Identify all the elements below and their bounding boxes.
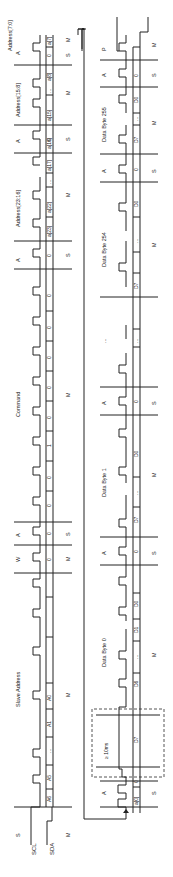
data-byte-0-title: Data Byte 0 [101, 638, 107, 667]
svg-text:D7: D7 [133, 736, 139, 743]
addr-23-16-title: Address[23:16] [15, 190, 21, 227]
svg-text:...: ... [46, 180, 52, 184]
svg-text:D0: D0 [133, 200, 139, 207]
ack-title: A [15, 139, 21, 143]
svg-text:0: 0 [133, 780, 139, 783]
svg-text:a[7]: a[7] [46, 36, 52, 45]
svg-text:M: M [65, 192, 71, 197]
svg-text:D6: D6 [133, 680, 139, 687]
data-byte-255-title: Data Byte 255 [101, 107, 107, 142]
svg-text:M: M [151, 472, 157, 477]
row2-driver-labels: S M S M S M S M S M [151, 42, 157, 795]
svg-text:a[0]: a[0] [133, 796, 139, 805]
svg-text:...: ... [46, 749, 52, 753]
svg-text:...: ... [133, 491, 139, 495]
svg-text:A: A [101, 169, 107, 173]
svg-text:0: 0 [46, 476, 52, 479]
svg-text:...: ... [133, 117, 139, 121]
svg-text:a[17]: a[17] [46, 159, 52, 171]
svg-text:A1: A1 [46, 721, 52, 727]
svg-text:M: M [65, 37, 71, 42]
svg-text:0: 0 [46, 54, 52, 57]
svg-text:0: 0 [46, 294, 52, 297]
svg-text:a[23]: a[23] [46, 225, 52, 237]
svg-text:M: M [151, 42, 157, 47]
svg-text:...: ... [133, 239, 139, 243]
write-bit-title: W [15, 556, 21, 562]
svg-text:0: 0 [46, 254, 52, 257]
row2-field-titles: A Data Byte 0 A Data Byte 1 A ... Data B… [101, 47, 107, 795]
data-byte-254-title: Data Byte 254 [101, 232, 107, 267]
svg-text:0: 0 [46, 356, 52, 359]
addr-7-0-title: Address[7:0] [7, 20, 13, 51]
svg-text:S: S [151, 791, 157, 795]
start-label: S [15, 833, 21, 837]
row2-dividers [100, 60, 158, 807]
svg-text:0: 0 [133, 168, 139, 171]
svg-text:0: 0 [133, 550, 139, 553]
svg-text:M: M [65, 90, 71, 95]
svg-text:A: A [101, 73, 107, 77]
svg-text:M: M [65, 832, 71, 837]
slave-address-title: Slave Address [15, 672, 21, 707]
svg-text:M: M [65, 392, 71, 397]
svg-text:1: 1 [46, 444, 52, 447]
svg-text:a[15]: a[15] [46, 109, 52, 121]
svg-text:...: ... [101, 338, 107, 343]
svg-text:A: A [101, 791, 107, 795]
addr-15-8-title: Address[15:8] [15, 83, 21, 117]
svg-text:S: S [151, 73, 157, 77]
svg-text:A5: A5 [46, 775, 52, 781]
svg-text:S: S [151, 169, 157, 173]
svg-text:D7: D7 [133, 136, 139, 143]
svg-text:...: ... [46, 89, 52, 93]
svg-text:S: S [65, 53, 71, 57]
svg-text:0: 0 [46, 326, 52, 329]
svg-text:A: A [101, 401, 107, 405]
wrap-arrow [78, 29, 84, 819]
svg-text:M: M [151, 242, 157, 247]
svg-text:A0: A0 [46, 695, 52, 701]
svg-text:0: 0 [46, 532, 52, 535]
row1-dividers [14, 65, 72, 807]
stop-label: P [101, 47, 107, 51]
data-byte-1-title: Data Byte 1 [101, 468, 107, 497]
svg-text:S: S [65, 253, 71, 257]
svg-text:D7: D7 [133, 282, 139, 289]
ack-title: A [15, 533, 21, 537]
svg-text:A6: A6 [46, 796, 52, 802]
sda-label: SDA [49, 843, 55, 855]
svg-text:...: ... [133, 655, 139, 659]
svg-text:D0: D0 [133, 450, 139, 457]
svg-text:D0: D0 [133, 600, 139, 607]
svg-text:0: 0 [46, 504, 52, 507]
row1-driver-labels: M M M S M S M S M S M [65, 37, 71, 837]
wait-time-label: ≥ 10ms [103, 742, 109, 759]
svg-text:0: 0 [133, 400, 139, 403]
row1-bit-values: A6 A5 ... A1 A0 0 0 0 0 1 0 0 0 0 0 0 a[… [46, 36, 52, 802]
svg-text:a[22]: a[22] [46, 201, 52, 213]
svg-text:D7: D7 [133, 516, 139, 523]
row2-bit-values: a[0] 0 D7 D6 ... D1 D0 0 D7 ... D0 0 ...… [133, 74, 139, 805]
row1-scl-waveform [31, 35, 40, 845]
svg-text:0: 0 [46, 416, 52, 419]
command-title: Command [15, 392, 21, 417]
svg-text:M: M [65, 692, 71, 697]
svg-text:S: S [151, 401, 157, 405]
svg-text:S: S [151, 551, 157, 555]
svg-text:0: 0 [46, 138, 52, 141]
svg-text:0: 0 [133, 74, 139, 77]
svg-text:D1: D1 [133, 626, 139, 633]
row1-field-titles: S Slave Address W A Command A Address[23… [7, 20, 21, 837]
svg-text:a[8]: a[8] [46, 72, 52, 81]
svg-text:M: M [151, 120, 157, 125]
timing-diagram-svg: SCL SDA S Slave Address W A C [0, 0, 173, 877]
svg-text:...: ... [133, 339, 139, 343]
svg-text:0: 0 [46, 386, 52, 389]
svg-text:D0: D0 [133, 96, 139, 103]
scl-label: SCL [31, 843, 37, 855]
timing-diagram: SCL SDA S Slave Address W A C [0, 0, 173, 877]
svg-text:M: M [65, 556, 71, 561]
svg-text:S: S [65, 532, 71, 536]
row2-scl-waveform [118, 35, 126, 813]
